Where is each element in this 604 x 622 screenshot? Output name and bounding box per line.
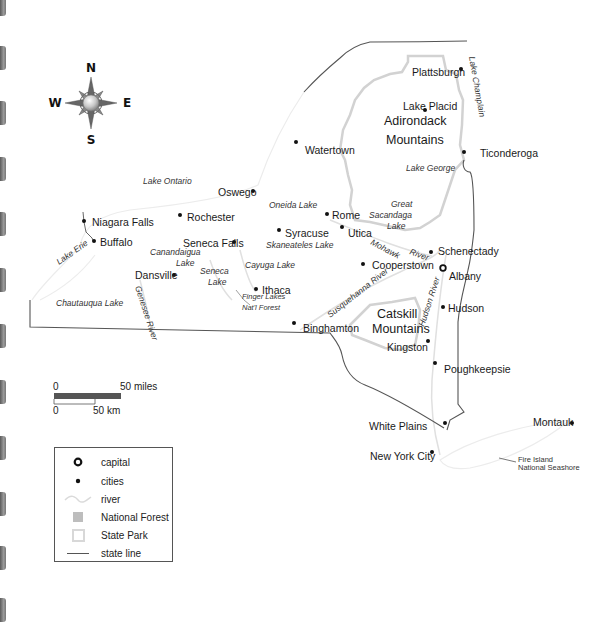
water-label: Mohawk xyxy=(369,237,402,261)
water-label: Lake xyxy=(208,277,227,287)
water-label: Great xyxy=(391,199,413,209)
forest-label-line1: Finger Lakes xyxy=(242,292,286,301)
region-label: Adirondack xyxy=(384,114,447,128)
region-label: Catskill xyxy=(377,307,417,321)
scale-miles-end: 50 miles xyxy=(120,381,157,392)
capital-icon xyxy=(55,457,101,467)
legend-label: cities xyxy=(101,476,124,487)
city-dot-icon xyxy=(325,212,329,216)
river-icon xyxy=(55,494,101,504)
city-label: Buffalo xyxy=(100,236,133,248)
water-label: Lake Ontario xyxy=(143,176,192,186)
city-label: Niagara Falls xyxy=(92,216,154,228)
compass-east: E xyxy=(123,96,131,110)
city-niagara-falls: Niagara Falls xyxy=(82,216,154,228)
scale-km-start: 0 xyxy=(53,405,59,416)
city-label: Ticonderoga xyxy=(480,147,538,159)
water-label: Lake George xyxy=(406,163,455,173)
city-rome: Rome xyxy=(325,209,360,221)
city-dot-icon xyxy=(277,228,281,232)
city-dot-icon xyxy=(361,262,365,266)
water-label: Chautauqua Lake xyxy=(56,298,123,308)
compass-south: S xyxy=(87,133,96,147)
city-hudson: Hudson xyxy=(441,302,484,314)
city-oswego: Oswego xyxy=(218,186,257,198)
legend-label: capital xyxy=(101,457,130,468)
legend-item-state-park: State Park xyxy=(55,526,148,544)
city-label: Schenectady xyxy=(438,245,499,257)
city-dot-icon xyxy=(433,361,437,365)
city-label: Hudson xyxy=(448,302,484,314)
capital-label: Albany xyxy=(449,270,482,282)
national-forest-swatch xyxy=(55,512,101,522)
capital-marker: Albany xyxy=(440,265,482,282)
legend-label: National Forest xyxy=(101,512,169,523)
city-dot-icon xyxy=(55,477,101,485)
city-watertown: Watertown xyxy=(294,140,355,156)
water-label: Oneida Lake xyxy=(269,200,317,210)
compass-west: W xyxy=(48,96,61,110)
city-label: Watertown xyxy=(305,144,355,156)
city-label: Rome xyxy=(332,209,360,221)
legend-item-national-forest: National Forest xyxy=(55,508,169,526)
scale-miles-start: 0 xyxy=(53,381,59,392)
region-label: Mountains xyxy=(386,133,444,147)
water-label: Lake Champlain xyxy=(467,56,488,118)
legend-label: river xyxy=(101,494,120,505)
water-label: Lake Erie xyxy=(54,238,89,267)
city-label: Syracuse xyxy=(285,227,329,239)
city-markers: PlattsburghLake PlacidTiconderogaWaterto… xyxy=(82,66,574,462)
legend-item-cities: cities xyxy=(55,472,124,490)
water-label: Skaneateles Lake xyxy=(266,240,334,250)
city-lake-placid: Lake Placid xyxy=(403,100,457,112)
legend-label: state line xyxy=(101,548,141,559)
water-label: Hudson River xyxy=(416,274,442,327)
city-label: Plattsburgh xyxy=(412,66,465,78)
water-label: Sacandaga xyxy=(369,210,412,220)
city-dot-icon xyxy=(441,305,445,309)
water-label: Cayuga Lake xyxy=(245,260,295,270)
city-dansville: Dansville xyxy=(135,269,178,281)
city-dot-icon xyxy=(92,239,96,243)
city-dot-icon xyxy=(82,219,86,223)
city-dot-icon xyxy=(294,140,298,144)
city-syracuse: Syracuse xyxy=(277,227,329,239)
city-label: Lake Placid xyxy=(403,100,457,112)
city-label: Montauk xyxy=(533,416,574,428)
city-label: Utica xyxy=(348,227,372,239)
city-plattsburgh: Plattsburgh xyxy=(412,66,465,78)
city-label: Dansville xyxy=(135,269,178,281)
water-label: Genesee River xyxy=(133,285,160,343)
city-buffalo: Buffalo xyxy=(92,236,133,248)
legend-item-river: river xyxy=(55,490,120,508)
city-label: Rochester xyxy=(187,211,235,223)
city-utica: Utica xyxy=(340,225,372,239)
city-ticonderoga: Ticonderoga xyxy=(462,147,538,159)
city-binghamton: Binghamton xyxy=(292,321,359,334)
city-label: Kingston xyxy=(387,341,428,353)
scale-bar: 0 50 miles 0 50 km xyxy=(53,381,157,416)
seashore-label-line2: National Seashore xyxy=(518,463,580,472)
vermont-mass-border xyxy=(447,160,474,430)
scale-km-end: 50 km xyxy=(93,405,120,416)
state-line-icon xyxy=(55,553,101,554)
city-label: Binghamton xyxy=(303,322,359,334)
city-dot-icon xyxy=(443,421,447,425)
city-label: Oswego xyxy=(218,186,257,198)
map-legend: capital cities river National Forest Sta… xyxy=(54,447,173,562)
water-label: Lake xyxy=(387,221,406,231)
water-label: Seneca xyxy=(200,266,229,276)
capital-icon xyxy=(440,265,446,271)
city-label: New York City xyxy=(370,450,436,462)
city-label: White Plains xyxy=(369,420,427,432)
legend-label: State Park xyxy=(101,530,148,541)
water-label: Canandaigua xyxy=(150,247,201,257)
city-dot-icon xyxy=(292,321,296,325)
city-poughkeepsie: Poughkeepsie xyxy=(433,361,511,375)
city-dot-icon xyxy=(254,287,258,291)
city-schenectady: Schenectady xyxy=(429,245,499,257)
state-park-swatch xyxy=(55,529,101,542)
city-rochester: Rochester xyxy=(178,211,235,223)
city-dot-icon xyxy=(462,150,466,154)
city-dot-icon xyxy=(178,213,182,217)
